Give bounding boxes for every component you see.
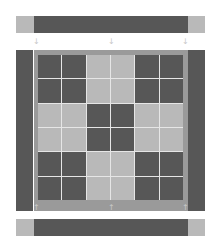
grid-cell[interactable]: [111, 79, 134, 102]
grid-cell[interactable]: [62, 177, 85, 200]
grid-cell[interactable]: [111, 104, 134, 127]
grid-cell[interactable]: [111, 55, 134, 78]
grid-cell[interactable]: [160, 55, 183, 78]
right-side-bar[interactable]: [188, 50, 205, 211]
board-grid: [38, 55, 183, 200]
grid-cell[interactable]: [87, 152, 110, 175]
grid-cell[interactable]: [87, 128, 110, 151]
grid-cell[interactable]: [135, 79, 158, 102]
grid-cell[interactable]: [38, 177, 61, 200]
grid-cell[interactable]: [135, 128, 158, 151]
game-board: [34, 50, 188, 211]
arrow-down-icon: ↓: [108, 38, 114, 46]
grid-cell[interactable]: [160, 104, 183, 127]
grid-cell[interactable]: [87, 79, 110, 102]
grid-cell[interactable]: [62, 104, 85, 127]
arrow-down-icon: ↓: [182, 38, 188, 46]
left-side-bar[interactable]: [16, 50, 33, 211]
grid-cell[interactable]: [135, 55, 158, 78]
bottom-bar[interactable]: [16, 219, 205, 236]
grid-cell[interactable]: [87, 177, 110, 200]
bottom-bar-right-segment: [188, 219, 205, 236]
top-bar-center-segment: [34, 16, 188, 33]
grid-cell[interactable]: [135, 152, 158, 175]
grid-cell[interactable]: [38, 152, 61, 175]
grid-cell[interactable]: [160, 79, 183, 102]
arrow-up-icon: ↑: [108, 204, 114, 212]
grid-cell[interactable]: [160, 177, 183, 200]
grid-cell[interactable]: [111, 152, 134, 175]
grid-cell[interactable]: [87, 104, 110, 127]
grid-cell[interactable]: [62, 55, 85, 78]
grid-cell[interactable]: [38, 55, 61, 78]
grid-cell[interactable]: [135, 104, 158, 127]
grid-cell[interactable]: [111, 128, 134, 151]
grid-cell[interactable]: [160, 152, 183, 175]
grid-cell[interactable]: [38, 104, 61, 127]
bottom-bar-left-segment: [16, 219, 34, 236]
grid-cell[interactable]: [38, 128, 61, 151]
top-bar-right-segment: [188, 16, 205, 33]
bottom-bar-center-segment: [34, 219, 188, 236]
arrow-down-icon: ↓: [33, 38, 39, 46]
arrow-up-icon: ↑: [33, 204, 39, 212]
top-bar-left-segment: [16, 16, 34, 33]
grid-cell[interactable]: [62, 128, 85, 151]
grid-cell[interactable]: [62, 152, 85, 175]
grid-cell[interactable]: [111, 177, 134, 200]
grid-cell[interactable]: [38, 79, 61, 102]
grid-cell[interactable]: [135, 177, 158, 200]
top-bar[interactable]: [16, 16, 205, 33]
arrow-up-icon: ↑: [182, 204, 188, 212]
grid-cell[interactable]: [87, 55, 110, 78]
grid-cell[interactable]: [62, 79, 85, 102]
grid-cell[interactable]: [160, 128, 183, 151]
